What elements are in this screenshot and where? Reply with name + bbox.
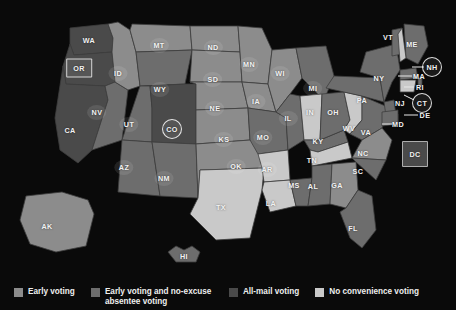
legend-item-0[interactable]: Early voting [14, 287, 75, 297]
state-ne[interactable] [190, 82, 248, 110]
state-ak[interactable] [20, 192, 94, 252]
legend-label-1: Early voting and no-excuse absentee voti… [105, 287, 213, 307]
map-area[interactable]: WAORCANVIDMTWYUTAZCONMNDSDNEKSOKTXMNIAMO… [0, 0, 456, 282]
state-mn[interactable] [238, 26, 272, 84]
legend-swatch-0 [14, 288, 23, 297]
state-wa[interactable] [70, 24, 113, 55]
legend-swatch-1 [91, 288, 100, 297]
state-al[interactable] [308, 164, 332, 206]
legend-item-1[interactable]: Early voting and no-excuse absentee voti… [91, 287, 213, 307]
state-wy[interactable] [136, 50, 192, 86]
state-in[interactable] [300, 94, 322, 140]
state-nd[interactable] [190, 26, 240, 52]
legend-label-3: No convenience voting [329, 287, 419, 297]
callout-leader-3 [404, 95, 414, 100]
legend-label-2: All-mail voting [243, 287, 299, 297]
state-me[interactable] [404, 24, 428, 64]
state-nm[interactable] [152, 142, 198, 198]
state-sd[interactable] [190, 50, 242, 82]
us-voting-methods-map: WAORCANVIDMTWYUTAZCONMNDSDNEKSOKTXMNIAMO… [0, 0, 456, 310]
legend-swatch-2 [229, 288, 238, 297]
legend-item-2[interactable]: All-mail voting [229, 287, 299, 297]
state-hi[interactable] [168, 246, 200, 262]
state-ri[interactable] [418, 78, 422, 86]
state-ct[interactable] [400, 80, 416, 92]
legend: Early votingEarly voting and no-excuse a… [0, 280, 456, 310]
state-mt[interactable] [130, 24, 192, 52]
legend-item-3[interactable]: No convenience voting [315, 287, 419, 297]
legend-swatch-3 [315, 288, 324, 297]
legend-label-0: Early voting [28, 287, 75, 297]
state-ma[interactable] [400, 68, 418, 80]
state-co[interactable] [150, 84, 196, 144]
state-ks[interactable] [196, 108, 250, 144]
state-tx[interactable] [190, 168, 264, 240]
state-mi[interactable] [296, 46, 334, 100]
us-map-svg[interactable] [0, 0, 456, 282]
